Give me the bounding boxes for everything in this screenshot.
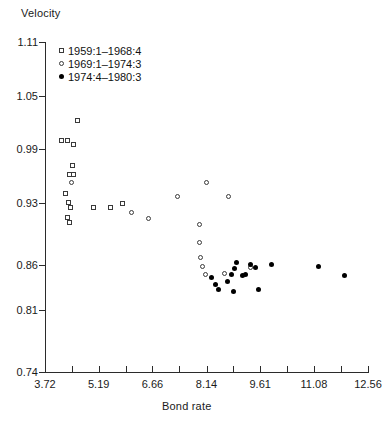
x-tick-label: 9.61 — [249, 378, 270, 390]
legend-label: 1959:1–1968:4 — [68, 45, 141, 57]
y-tick-label: 0.81 — [4, 304, 38, 316]
x-minor-tick-mark — [72, 366, 73, 372]
data-point — [342, 273, 347, 278]
y-tick-mark — [39, 203, 45, 204]
data-point — [316, 264, 321, 269]
y-tick-mark — [39, 42, 45, 43]
data-point — [68, 205, 73, 210]
x-minor-tick-mark — [233, 366, 234, 372]
y-axis-line — [45, 42, 46, 373]
data-point — [225, 279, 230, 284]
y-tick-label: 1.05 — [4, 90, 38, 102]
legend-item: 1974:4–1980:3 — [55, 70, 179, 83]
data-point — [75, 118, 80, 123]
x-tick-label: 5.19 — [88, 378, 109, 390]
x-tick-mark — [207, 366, 208, 372]
data-point — [120, 201, 125, 206]
y-tick-mark — [39, 96, 45, 97]
data-point — [71, 172, 76, 177]
y-tick-label: 0.93 — [4, 197, 38, 209]
x-minor-tick-mark — [126, 366, 127, 372]
data-point — [222, 271, 227, 276]
data-point — [129, 210, 134, 215]
legend-label: 1974:4–1980:3 — [68, 71, 141, 83]
data-point — [204, 180, 209, 185]
y-tick-mark — [39, 149, 45, 150]
dot-marker-icon — [55, 74, 68, 79]
data-point — [209, 275, 214, 280]
y-tick-mark — [39, 372, 45, 373]
x-tick-label: 6.66 — [142, 378, 163, 390]
x-tick-mark — [368, 366, 369, 372]
data-point — [70, 163, 75, 168]
x-minor-tick-mark — [341, 366, 342, 372]
x-tick-label: 12.56 — [354, 378, 382, 390]
legend-item: 1959:1–1968:4 — [55, 44, 179, 57]
legend-marker — [59, 48, 64, 53]
data-point — [253, 265, 258, 270]
data-point — [108, 205, 113, 210]
data-point — [91, 205, 96, 210]
y-axis-title: Velocity — [21, 7, 61, 19]
data-point — [197, 222, 202, 227]
x-tick-mark — [260, 366, 261, 372]
data-point — [63, 191, 68, 196]
data-point — [234, 260, 239, 265]
x-axis-title: Bond rate — [162, 400, 212, 412]
y-tick-label: 0.99 — [4, 143, 38, 155]
data-point — [226, 194, 231, 199]
y-tick-label: 0.74 — [4, 366, 38, 378]
data-point — [229, 272, 234, 277]
data-point — [203, 272, 208, 277]
data-point — [67, 220, 72, 225]
square-marker-icon — [55, 48, 68, 53]
data-point — [256, 287, 261, 292]
legend-item: 1969:1–1974:3 — [55, 57, 179, 70]
x-minor-tick-mark — [179, 366, 180, 372]
data-point — [65, 138, 70, 143]
y-tick-mark — [39, 265, 45, 266]
data-point — [200, 264, 205, 269]
data-point — [198, 255, 203, 260]
data-point — [231, 289, 236, 294]
legend-marker — [59, 74, 64, 79]
data-point — [146, 216, 151, 221]
y-tick-label: 1.11 — [4, 36, 38, 48]
data-point — [243, 272, 248, 277]
data-point — [232, 266, 237, 271]
data-point — [71, 142, 76, 147]
legend: 1959:1–1968:41969:1–1974:31974:4–1980:3 — [55, 44, 179, 83]
y-tick-label: 0.86 — [4, 259, 38, 271]
x-tick-mark — [45, 366, 46, 372]
x-tick-label: 11.08 — [301, 378, 328, 390]
x-tick-mark — [314, 366, 315, 372]
scatter-plot: Velocity Bond rate 1.111.050.990.930.860… — [0, 0, 391, 432]
data-point — [216, 287, 221, 292]
data-point — [69, 180, 74, 185]
circle-marker-icon — [55, 61, 68, 66]
data-point — [59, 138, 64, 143]
x-minor-tick-mark — [287, 366, 288, 372]
legend-label: 1969:1–1974:3 — [68, 58, 141, 70]
y-tick-mark — [39, 310, 45, 311]
data-point — [197, 240, 202, 245]
legend-marker — [59, 61, 64, 66]
x-tick-mark — [152, 366, 153, 372]
x-tick-label: 3.72 — [34, 378, 55, 390]
x-axis-line — [45, 372, 369, 373]
x-tick-label: 8.14 — [196, 378, 217, 390]
data-point — [269, 262, 274, 267]
data-point — [175, 194, 180, 199]
x-tick-mark — [99, 366, 100, 372]
